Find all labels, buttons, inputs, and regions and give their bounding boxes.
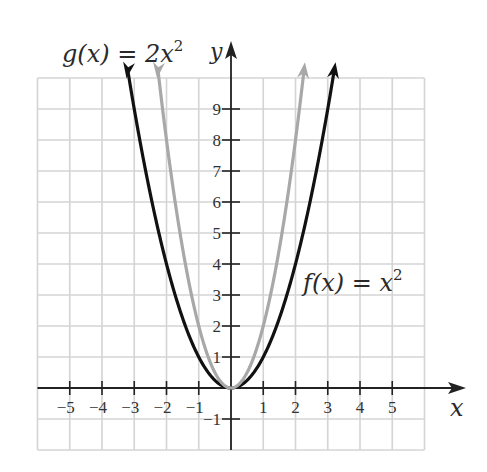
x-tick-label: −3: [121, 398, 139, 417]
y-tick-label: 2: [213, 317, 222, 336]
y-tick-label: 6: [213, 193, 222, 212]
parabola-chart: −5−4−3−2−112345−1123456789 f(x) = x2 g(x…: [0, 0, 487, 472]
y-tick-label: −1: [203, 410, 221, 429]
x-tick-label: 3: [324, 398, 333, 417]
y-tick-label: 5: [213, 224, 222, 243]
f-label: f(x) = x2: [301, 266, 403, 297]
x-tick-label: 5: [388, 398, 397, 417]
y-tick-label: 1: [213, 348, 222, 367]
x-tick-label: −2: [153, 398, 171, 417]
x-tick-label: −4: [89, 398, 108, 417]
g-label: g(x) = 2x2: [62, 37, 183, 68]
x-tick-label: −1: [186, 398, 204, 417]
x-tick-label: 1: [259, 398, 268, 417]
y-tick-label: 4: [213, 255, 222, 274]
y-tick-label: 3: [213, 286, 222, 305]
y-tick-label: 8: [213, 131, 222, 150]
x-tick-label: 4: [356, 398, 365, 417]
y-axis-label: y: [209, 39, 223, 64]
y-tick-label: 9: [213, 100, 222, 119]
x-tick-label: 2: [291, 398, 300, 417]
x-axis-label: x: [450, 394, 464, 422]
x-tick-label: −5: [57, 398, 75, 417]
y-tick-label: 7: [213, 162, 222, 181]
